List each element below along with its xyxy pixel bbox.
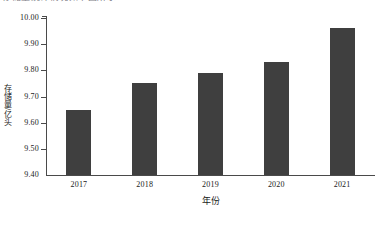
x-axis-tick-label: 2020: [256, 180, 296, 190]
y-axis-tick-label: 9.60: [1, 119, 39, 127]
plot-area: [46, 18, 375, 175]
x-axis-tick-labels: 20172018201920202021: [46, 180, 375, 192]
y-axis-tick-label: 9.40: [1, 171, 39, 179]
y-axis-tick: [41, 123, 47, 124]
y-axis-tick-label: 10.00: [1, 14, 39, 22]
bar-2019: [198, 73, 223, 175]
y-axis-tick-labels: 10.009.909.809.709.609.509.40: [0, 0, 39, 228]
y-axis-tick: [41, 149, 47, 150]
x-axis-tick-label: 2021: [322, 180, 362, 190]
y-axis-tick-label: 9.70: [1, 93, 39, 101]
x-axis-tick-label: 2019: [191, 180, 231, 190]
y-axis-tick: [41, 70, 47, 71]
bar-2017: [66, 110, 91, 175]
y-axis-tick-label: 9.50: [1, 145, 39, 153]
x-axis-line: [46, 175, 375, 176]
x-axis-tick-label: 2018: [125, 180, 165, 190]
y-axis-tick: [41, 18, 47, 19]
y-axis-tick-label: 9.90: [1, 40, 39, 48]
x-axis-title: 年份: [46, 196, 375, 207]
bar-2018: [132, 83, 157, 175]
bar-2020: [264, 62, 289, 175]
y-axis-tick-label: 9.80: [1, 66, 39, 74]
bar-chart-figure: 存储量/亿头 10.009.909.809.709.609.509.40 201…: [0, 0, 391, 228]
x-axis-tick-label: 2017: [59, 180, 99, 190]
y-axis-tick: [41, 97, 47, 98]
bar-2021: [330, 28, 355, 175]
y-axis-tick: [41, 44, 47, 45]
